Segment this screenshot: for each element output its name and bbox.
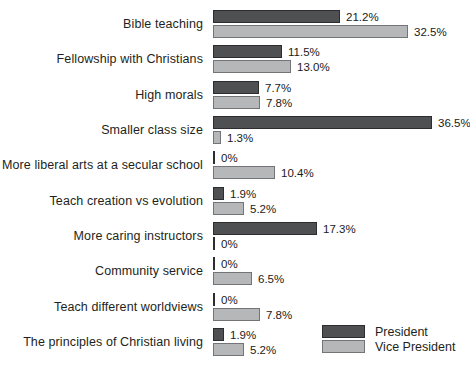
bar-group: Community service0%6.5% [0, 257, 470, 285]
value-label-president: 1.9% [230, 328, 256, 341]
value-label-vicepresident: 10.4% [281, 166, 314, 179]
value-label-vicepresident: 0% [221, 237, 238, 250]
value-label-president: 36.5% [438, 116, 470, 129]
value-label-president: 17.3% [323, 222, 356, 235]
value-label-vicepresident: 7.8% [266, 308, 292, 321]
bar-president [213, 187, 224, 200]
bar-group: More liberal arts at a secular school0%1… [0, 151, 470, 179]
category-label: The principles of Christian living [0, 328, 203, 356]
bar-vicepresident [213, 131, 221, 144]
bar-vicepresident [213, 96, 260, 109]
legend-swatch-vice-president [322, 340, 365, 353]
category-label: Smaller class size [0, 116, 203, 144]
legend-label-vice-president: Vice President [375, 340, 455, 354]
value-label-president: 0% [221, 151, 238, 164]
value-label-president: 11.5% [288, 45, 320, 58]
category-label: Teach creation vs evolution [0, 187, 203, 215]
bar-group: Bible teaching21.2%32.5% [0, 10, 470, 38]
bar-group: More caring instructors17.3%0% [0, 222, 470, 250]
bar-vicepresident [213, 308, 260, 321]
bar-president [213, 81, 259, 94]
bar-president [213, 222, 317, 235]
value-label-vicepresident: 5.2% [250, 202, 276, 215]
category-label: Community service [0, 257, 203, 285]
value-label-president: 21.2% [346, 10, 379, 23]
bar-vicepresident [213, 166, 275, 179]
category-label: Fellowship with Christians [0, 45, 203, 73]
value-label-vicepresident: 13.0% [297, 60, 330, 73]
legend-row-vice-president: Vice President [322, 340, 455, 353]
bar-president [213, 45, 282, 58]
bar-chart: Bible teaching21.2%32.5%Fellowship with … [0, 0, 470, 365]
bar-vicepresident [213, 60, 291, 73]
value-label-president: 1.9% [230, 187, 256, 200]
bar-group: Fellowship with Christians11.5%13.0% [0, 45, 470, 73]
value-label-president: 0% [221, 293, 238, 306]
bar-group: Teach different worldviews0%7.8% [0, 293, 470, 321]
value-label-vicepresident: 7.8% [266, 96, 292, 109]
zero-tick-president [213, 151, 215, 164]
legend-row-president: President [322, 325, 455, 338]
legend-swatch-president [322, 325, 365, 338]
category-label: More liberal arts at a secular school [0, 151, 203, 179]
zero-tick-vicepresident [213, 237, 215, 250]
category-label: High morals [0, 81, 203, 109]
value-label-vicepresident: 5.2% [250, 343, 276, 356]
bar-president [213, 116, 432, 129]
value-label-vicepresident: 1.3% [227, 131, 253, 144]
bar-vicepresident [213, 343, 244, 356]
value-label-vicepresident: 6.5% [258, 272, 284, 285]
value-label-president: 0% [221, 257, 238, 270]
category-label: Bible teaching [0, 10, 203, 38]
legend: President Vice President [322, 325, 455, 355]
bar-group: Teach creation vs evolution1.9%5.2% [0, 187, 470, 215]
legend-label-president: President [375, 325, 428, 339]
bar-president [213, 328, 224, 341]
bar-group: High morals7.7%7.8% [0, 81, 470, 109]
bar-group: Smaller class size36.5%1.3% [0, 116, 470, 144]
bar-vicepresident [213, 25, 408, 38]
zero-tick-president [213, 257, 215, 270]
category-label: Teach different worldviews [0, 293, 203, 321]
value-label-vicepresident: 32.5% [414, 25, 447, 38]
value-label-president: 7.7% [265, 81, 291, 94]
bar-vicepresident [213, 272, 252, 285]
zero-tick-president [213, 293, 215, 306]
bar-vicepresident [213, 202, 244, 215]
category-label: More caring instructors [0, 222, 203, 250]
bar-president [213, 10, 340, 23]
